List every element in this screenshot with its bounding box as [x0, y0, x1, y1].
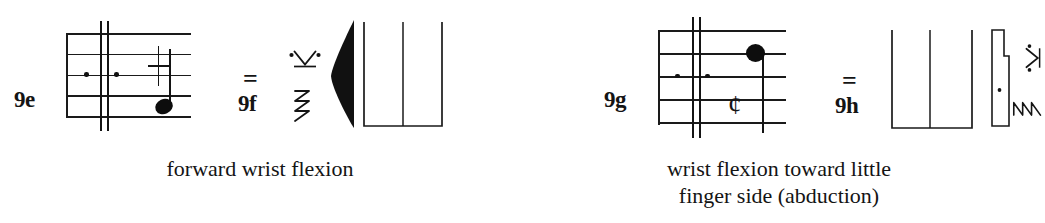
u-bracket-icon: [890, 30, 974, 130]
barline-first: [100, 21, 102, 131]
example-label-9e: 9e: [14, 88, 35, 111]
note-stem: [762, 53, 764, 133]
stepped-bar-icon: [988, 28, 1014, 130]
cent-sign-icon: ¢: [728, 92, 742, 119]
staff-left-edge: [66, 33, 68, 118]
notehead: [153, 96, 176, 117]
staff-line-4: [66, 95, 191, 97]
benesh-staff-9g: ¢: [658, 30, 786, 125]
benesh-staff-9e: [66, 33, 191, 118]
caption-line-1: forward wrist flexion: [0, 156, 520, 183]
caption-9e-9f: forward wrist flexion: [0, 156, 520, 183]
staff-line-1: [66, 33, 191, 35]
example-panel-9e: 9e = 9f: [0, 0, 520, 223]
notehead: [746, 44, 765, 62]
reversed-e-icon: [292, 89, 314, 125]
black-leaf-icon: [330, 20, 356, 128]
level-dot-right: [114, 72, 119, 77]
plus-sign-icon: [148, 46, 169, 86]
example-panel-9g: 9g ¢ = 9h: [520, 0, 1038, 223]
reversed-e-icon-rotated: [1012, 98, 1044, 118]
level-dot-left: [84, 72, 89, 77]
dotted-v-icon: [288, 46, 322, 72]
staff-left-edge: [658, 30, 660, 125]
dotted-v-icon-rotated: [1021, 43, 1045, 73]
barline-second: [107, 21, 109, 131]
equals-sign-9e: =: [243, 66, 258, 92]
barline-first: [692, 17, 694, 138]
barline-second: [699, 17, 701, 138]
caption-9g-9h: wrist flexion toward little finger side …: [520, 156, 1038, 210]
example-label-9h: 9h: [835, 94, 858, 117]
staff-line-4: [658, 99, 786, 101]
level-dot-right: [705, 74, 710, 79]
u-bracket-icon: [362, 22, 444, 128]
equals-sign-9g: =: [842, 68, 857, 94]
staff-line-1: [658, 30, 786, 32]
example-label-9g: 9g: [604, 88, 626, 111]
level-dot-left: [675, 74, 680, 79]
caption-line-1: wrist flexion toward little: [520, 156, 1038, 183]
note-stem: [169, 49, 171, 107]
staff-line-5: [66, 116, 191, 118]
staff-line-2: [658, 53, 786, 55]
staff-line-2: [66, 54, 191, 56]
example-label-9f: 9f: [238, 92, 256, 115]
staff-line-5: [658, 122, 786, 124]
caption-line-2: finger side (abduction): [520, 183, 1038, 210]
